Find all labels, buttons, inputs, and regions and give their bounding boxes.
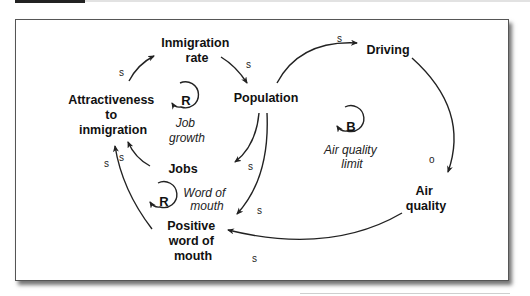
- node-jobs: Jobs: [168, 162, 197, 176]
- loop-name: Job growth: [169, 116, 205, 145]
- edge-air-quality-to-wom: [228, 213, 402, 239]
- polarity-label: s: [337, 33, 342, 44]
- edge-attractiveness-to-immigration: [129, 56, 154, 81]
- edge-jobs-to-attractiveness: [128, 142, 150, 166]
- polarity-label: s: [119, 67, 124, 78]
- edge-population-to-driving: [277, 43, 357, 83]
- polarity-label: s: [119, 152, 124, 163]
- loop-letter: R: [181, 93, 191, 108]
- edge-population-to-jobs: [235, 113, 259, 162]
- loop-name: Air quality limit: [323, 143, 380, 171]
- polarity-label: s: [252, 253, 257, 264]
- node-driving: Driving: [366, 43, 409, 57]
- node-air-quality: Air quality: [406, 184, 446, 213]
- loop-word-of-mouth: R Word of mouth: [150, 182, 229, 213]
- loop-letter: R: [159, 194, 169, 209]
- loop-name: Word of mouth: [183, 186, 228, 213]
- edge-immigration-to-population: [221, 57, 247, 83]
- loop-job-growth: R Job growth: [169, 82, 205, 145]
- node-attractiveness: Attractiveness to inmigration: [68, 93, 158, 137]
- causal-loop-diagram: s s s o s s s s s Inmigration rate Popul…: [0, 0, 530, 296]
- loop-letter: B: [346, 119, 355, 134]
- polarity-label: s: [246, 59, 251, 70]
- node-immigration-rate: Inmigration rate: [161, 36, 233, 65]
- loop-air-quality-limit: B Air quality limit: [323, 106, 380, 171]
- node-population: Population: [234, 91, 299, 105]
- polarity-label: s: [248, 161, 253, 172]
- node-positive-word-of-mouth: Positive word of mouth: [167, 219, 218, 263]
- polarity-label: s: [104, 158, 109, 169]
- polarity-label: o: [429, 154, 435, 165]
- polarity-label: s: [257, 205, 262, 216]
